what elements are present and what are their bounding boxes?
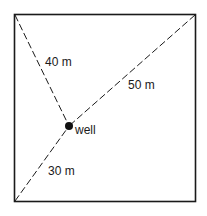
label-well: well <box>74 123 96 137</box>
well-marker <box>65 122 73 130</box>
square-boundary <box>15 15 196 202</box>
square-field-diagram: 40 m 50 m 30 m well <box>0 0 207 216</box>
dashed-line-top-right <box>69 15 195 126</box>
dashed-line-top-left <box>15 15 69 126</box>
label-50m: 50 m <box>128 78 155 92</box>
label-40m: 40 m <box>45 55 72 69</box>
label-30m: 30 m <box>48 164 75 178</box>
